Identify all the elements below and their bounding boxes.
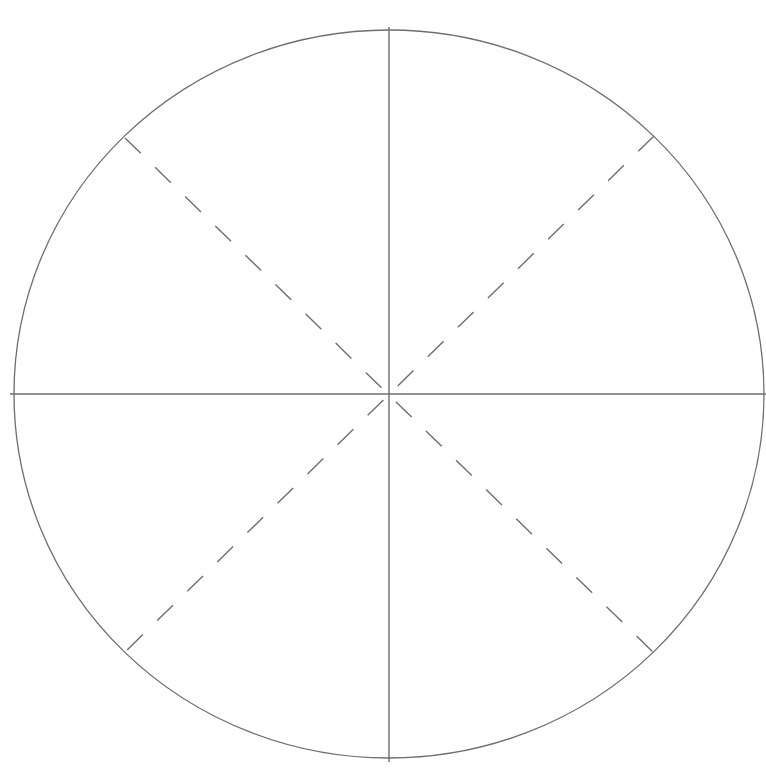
eighths-circle-diagram: [0, 0, 766, 772]
